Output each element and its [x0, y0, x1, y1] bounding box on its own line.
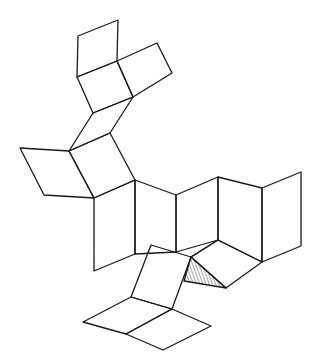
- face-strip-panel-1: [94, 180, 135, 271]
- face-middle-square: [69, 133, 135, 198]
- face-strip-panel-2: [135, 180, 176, 254]
- face-bottom-right-rhombus: [126, 309, 211, 350]
- polyhedron-net-diagram: [0, 0, 314, 362]
- face-left-wing-square: [20, 148, 94, 198]
- face-strip-panel-5: [262, 172, 301, 262]
- net-drawing: [0, 0, 314, 362]
- hatched-triangle-face: [184, 257, 226, 288]
- face-top-center-square: [77, 61, 133, 113]
- net-faces: [20, 20, 301, 350]
- face-strip-panel-4: [218, 177, 262, 262]
- face-bottom-left-rhombus: [83, 297, 172, 334]
- edge-fold-line-1: [191, 240, 218, 257]
- face-upper-rhombus: [69, 97, 133, 151]
- face-top-right-square: [117, 43, 172, 97]
- face-strip-panel-3: [176, 177, 218, 252]
